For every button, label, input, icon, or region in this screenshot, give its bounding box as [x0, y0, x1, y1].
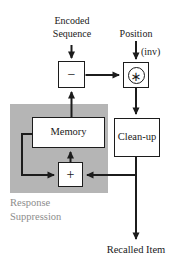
label-encoded-sequence: Encoded Sequence: [40, 14, 104, 40]
label-inv: (inv): [141, 45, 160, 58]
plus-operator: +: [67, 168, 75, 182]
circled-asterisk-icon: ∗: [128, 67, 145, 84]
label-response-suppression: Response Suppression: [10, 196, 82, 224]
node-cleanup: Clean-up: [114, 118, 160, 157]
node-memory: Memory: [32, 117, 105, 148]
node-subtract: −: [58, 61, 85, 88]
label-recalled-item: Recalled Item: [103, 243, 169, 256]
asterisk-glyph: ∗: [131, 70, 142, 83]
minus-operator: −: [68, 68, 76, 82]
label-position: Position: [106, 27, 166, 40]
memory-label: Memory: [50, 127, 86, 138]
node-add: +: [58, 162, 83, 187]
node-convolve: ∗: [123, 62, 149, 88]
figure-memory-model: Encoded Sequence Position (inv) − ∗ Memo…: [0, 0, 176, 268]
cleanup-label: Clean-up: [118, 132, 157, 143]
